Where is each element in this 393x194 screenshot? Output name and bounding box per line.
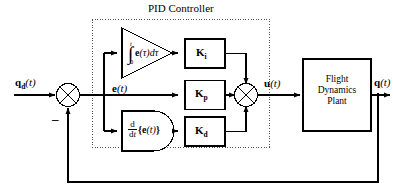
- plant-label-line3: Plant: [303, 96, 371, 107]
- gain-label-ki: Ki: [196, 47, 207, 61]
- gain-ki-subscript: i: [205, 52, 207, 61]
- control-signal-arg: (t): [270, 77, 280, 89]
- integral-differential: dτ: [150, 47, 159, 58]
- derivative-argument: {e(t)}: [137, 125, 160, 135]
- feedback-minus-sign: –: [52, 112, 59, 125]
- ki-to-sum-wire: [225, 54, 246, 85]
- integrand-variable: (τ): [139, 47, 149, 58]
- pid-controller-title: PID Controller: [148, 3, 214, 14]
- error-branch-node: [102, 93, 106, 97]
- integral-integrand: e(τ)dτ: [135, 48, 158, 58]
- kd-to-sum-wire: [225, 106, 246, 132]
- plant-block-label: Flight Dynamics Plant: [303, 74, 371, 108]
- gain-kp-symbol: K: [195, 87, 204, 99]
- reference-signal-label: qd(t): [15, 77, 36, 91]
- integral-sign-wrapper: t∫0: [128, 42, 135, 64]
- reference-signal-arg: (t): [25, 76, 35, 88]
- derivative-expression: ddt{e(t)}: [128, 120, 160, 139]
- pid-control-block-diagram: PID Controller qd(t) – e(t) t∫0e(τ)dτ dd…: [0, 0, 393, 194]
- derivative-argument-arg: (t): [146, 124, 155, 135]
- output-signal-arg: (t): [380, 76, 390, 88]
- control-signal-label: u(t): [264, 78, 281, 89]
- integral-expression: t∫0e(τ)dτ: [128, 42, 158, 64]
- derivative-denominator-t: t: [134, 129, 137, 139]
- derivative-fraction: ddt: [128, 120, 137, 139]
- error-signal-arg: (t): [117, 82, 127, 94]
- gain-label-kp: Kp: [195, 88, 208, 102]
- gain-kd-symbol: K: [195, 124, 204, 136]
- output-signal-label: q(t): [374, 77, 391, 88]
- error-signal-label: e(t): [112, 83, 127, 94]
- gain-ki-symbol: K: [196, 46, 205, 58]
- derivative-denominator: dt: [128, 130, 137, 139]
- plant-label-line2: Dynamics: [303, 85, 371, 96]
- gain-label-kd: Kd: [195, 125, 208, 139]
- integral-lower-limit: 0: [130, 59, 133, 66]
- gain-kd-subscript: d: [204, 130, 208, 139]
- plant-label-line1: Flight: [303, 74, 371, 85]
- derivative-brace-close: }: [156, 124, 160, 135]
- gain-kp-subscript: p: [204, 93, 208, 102]
